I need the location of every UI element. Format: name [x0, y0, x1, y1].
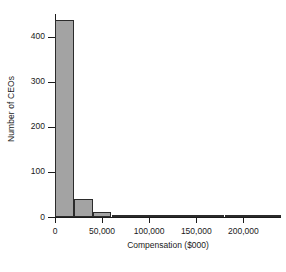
y-axis-tick — [48, 127, 55, 128]
histogram-bar — [93, 212, 112, 217]
y-axis-tick-label: 0 — [0, 213, 45, 222]
histogram-bar — [206, 215, 225, 217]
y-axis-tick-label: 400 — [0, 32, 45, 41]
histogram-bar — [243, 215, 262, 217]
x-axis-tick-label: 200,000 — [228, 226, 259, 236]
histogram-bar — [74, 199, 93, 217]
x-axis-title: Compensation ($000) — [55, 240, 281, 250]
x-axis-tick-label: 150,000 — [181, 226, 212, 236]
histogram-bar — [168, 215, 187, 217]
x-axis-tick — [102, 218, 103, 223]
x-axis-tick-label: 50,000 — [89, 226, 115, 236]
y-axis-tick — [48, 217, 55, 218]
histogram-chart: Number of CEOs 0100200300400 050,000100,… — [0, 0, 286, 272]
x-axis-tick-label: 0 — [53, 226, 58, 236]
y-axis-tick-label: 200 — [0, 122, 45, 131]
y-axis-tick-label: 100 — [0, 167, 45, 176]
y-axis-tick — [48, 172, 55, 173]
histogram-bar — [187, 215, 206, 217]
x-axis-tick-label: 100,000 — [134, 226, 165, 236]
y-axis-tick — [48, 82, 55, 83]
y-axis-tick — [48, 37, 55, 38]
histogram-bar — [55, 20, 74, 217]
x-axis-tick — [149, 218, 150, 223]
histogram-bar — [225, 215, 244, 217]
histogram-bar — [112, 215, 131, 217]
x-axis-tick — [55, 218, 56, 223]
histogram-bar — [149, 215, 168, 217]
histogram-bar — [262, 215, 281, 217]
x-axis-tick — [243, 218, 244, 223]
y-axis-tick-label: 300 — [0, 77, 45, 86]
histogram-bar — [130, 215, 149, 217]
x-axis-line — [55, 217, 281, 218]
x-axis-tick — [196, 218, 197, 223]
plot-area — [55, 14, 281, 217]
